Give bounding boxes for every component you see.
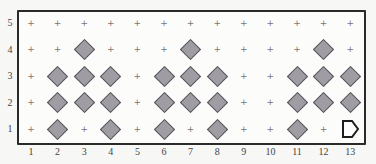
grid-cell-empty: +	[151, 10, 177, 36]
grid-cell-empty: +	[337, 10, 363, 36]
diamond-icon	[100, 92, 121, 113]
grid-cell-diamond	[311, 90, 337, 116]
plus-marker: +	[160, 45, 168, 54]
plus-marker: +	[240, 19, 248, 28]
plus-marker: +	[107, 45, 115, 54]
column-label: 3	[74, 147, 94, 157]
grid-cell-diamond	[151, 116, 177, 142]
column-label: 9	[234, 147, 254, 157]
grid-cell-diamond	[45, 116, 71, 142]
column-label: 12	[314, 147, 334, 157]
grid-cell-empty: +	[98, 10, 124, 36]
diamond-icon	[286, 118, 307, 139]
grid-cell-empty: +	[124, 10, 150, 36]
plus-marker: +	[160, 19, 168, 28]
grid-cell-empty: +	[18, 10, 44, 36]
plus-marker: +	[267, 98, 275, 107]
grid-cell-empty: +	[45, 37, 71, 63]
plus-marker: +	[213, 19, 221, 28]
grid-cell-empty: +	[204, 10, 230, 36]
plus-marker: +	[27, 45, 35, 54]
grid-cell-empty: +	[231, 63, 257, 89]
plus-marker: +	[54, 19, 62, 28]
column-label: 7	[181, 147, 201, 157]
grid-cell-diamond	[204, 116, 230, 142]
grid-cell-diamond	[337, 63, 363, 89]
grid-cell-diamond	[98, 90, 124, 116]
diamond-icon	[207, 118, 228, 139]
column-label: 11	[287, 147, 307, 157]
grid-cell-empty: +	[178, 10, 204, 36]
grid-cell-diamond	[71, 90, 97, 116]
grid-cell-empty: +	[124, 90, 150, 116]
plus-marker: +	[293, 45, 301, 54]
diamond-icon	[47, 92, 68, 113]
grid-cell-arrow	[337, 116, 363, 142]
column-label: 10	[260, 147, 280, 157]
grid-cell-empty: +	[284, 10, 310, 36]
column-label: 5	[127, 147, 147, 157]
grid-cell-diamond	[204, 90, 230, 116]
column-label: 1	[21, 147, 41, 157]
diamond-icon	[153, 118, 174, 139]
row-label: 1	[0, 124, 20, 134]
grid-cell-diamond	[71, 37, 97, 63]
plus-marker: +	[107, 19, 115, 28]
plus-marker: +	[240, 125, 248, 134]
plus-marker: +	[134, 19, 142, 28]
plus-marker: +	[134, 72, 142, 81]
plus-marker: +	[27, 98, 35, 107]
diamond-icon	[313, 39, 334, 60]
plus-marker: +	[54, 45, 62, 54]
row-label: 2	[0, 98, 20, 108]
grid-cell-empty: +	[71, 10, 97, 36]
plus-marker: +	[320, 125, 328, 134]
grid-cell-empty: +	[98, 37, 124, 63]
diamond-icon	[180, 39, 201, 60]
diamond-icon	[286, 92, 307, 113]
plus-marker: +	[267, 45, 275, 54]
grid-cell-empty: +	[231, 10, 257, 36]
diamond-icon	[74, 92, 95, 113]
plus-marker: +	[27, 125, 35, 134]
grid-cell-diamond	[71, 63, 97, 89]
plus-marker: +	[240, 72, 248, 81]
plus-marker: +	[27, 72, 35, 81]
grid-cell-empty: +	[124, 116, 150, 142]
grid-cell-diamond	[178, 63, 204, 89]
grid-cell-diamond	[204, 63, 230, 89]
diamond-icon	[180, 92, 201, 113]
grid-cell-empty: +	[18, 116, 44, 142]
grid-cell-empty: +	[124, 37, 150, 63]
plus-marker: +	[346, 19, 354, 28]
plus-marker: +	[80, 125, 88, 134]
grid-cell-diamond	[311, 37, 337, 63]
grid-cell-empty: +	[178, 116, 204, 142]
grid-cell-diamond	[151, 63, 177, 89]
plus-marker: +	[267, 125, 275, 134]
grid-cell-empty: +	[257, 90, 283, 116]
grid-cell-diamond	[151, 90, 177, 116]
grid-cell-empty: +	[231, 116, 257, 142]
diamond-icon	[74, 39, 95, 60]
plus-marker: +	[267, 72, 275, 81]
grid-cell-empty: +	[257, 37, 283, 63]
grid-cell-empty: +	[18, 37, 44, 63]
plus-marker: +	[346, 45, 354, 54]
grid-cell-diamond	[98, 63, 124, 89]
grid-cell-empty: +	[71, 116, 97, 142]
diamond-icon	[100, 65, 121, 86]
grid-cell-diamond	[284, 63, 310, 89]
column-label: 13	[340, 147, 360, 157]
plus-marker: +	[134, 125, 142, 134]
diamond-icon	[340, 92, 361, 113]
grid-cell-diamond	[178, 37, 204, 63]
grid-cell-empty: +	[257, 10, 283, 36]
grid-cell-empty: +	[151, 37, 177, 63]
diamond-icon	[207, 65, 228, 86]
plus-marker: +	[134, 98, 142, 107]
grid-cell-empty: +	[257, 63, 283, 89]
plus-marker: +	[293, 19, 301, 28]
diamond-icon	[286, 65, 307, 86]
grid-cell-diamond	[45, 63, 71, 89]
